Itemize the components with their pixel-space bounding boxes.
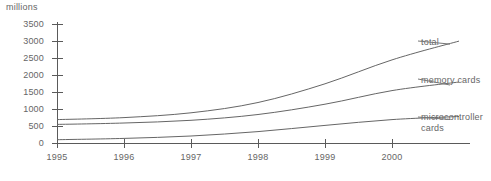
- series-curve-total: [57, 41, 459, 120]
- series-curve-microcontroller-cards: [57, 117, 459, 140]
- chart-container: millions 3500 3000 2500 2000 1500 1000 5…: [0, 0, 491, 181]
- leader-line-memory-cards: [418, 79, 450, 85]
- chart-plot-area: [0, 0, 491, 181]
- leader-line-total: [418, 41, 450, 44]
